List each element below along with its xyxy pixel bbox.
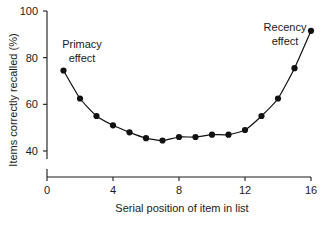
data-point [291,65,297,71]
x-axis-title: Serial position of item in list [115,202,248,214]
data-point [126,129,132,135]
annotation-recency-effect: Recency effect [264,21,307,47]
serial-position-chart: 100 80 60 40 0 4 8 12 16 Items correctly… [0,0,335,226]
x-tick-label-0: 0 [44,184,50,196]
data-point [225,132,231,138]
data-point [60,67,66,73]
chart-canvas: 100 80 60 40 0 4 8 12 16 Items correctly… [0,0,335,226]
y-tick-label-40: 40 [26,145,38,157]
y-tick-label-80: 80 [26,52,38,64]
y-tick-label-60: 60 [26,98,38,110]
data-point [192,134,198,140]
x-tick-label-8: 8 [176,184,182,196]
x-tick-label-16: 16 [305,184,317,196]
annotation-primacy-effect: Primacy effect [62,38,102,64]
recency-effect-label-line2: effect [272,35,299,47]
primacy-effect-label-line1: Primacy [62,38,102,50]
data-point [93,113,99,119]
y-axis-title: Items correctly recalled (%) [7,33,19,166]
data-point [209,132,215,138]
y-axis-ticks [43,11,47,151]
data-point [77,95,83,101]
recency-effect-label-line1: Recency [264,21,307,33]
primacy-effect-label-line2: effect [69,52,96,64]
data-point [308,28,314,34]
data-point [258,113,264,119]
x-tick-label-4: 4 [110,184,116,196]
y-tick-label-100: 100 [20,5,38,17]
data-point [176,134,182,140]
x-tick-label-12: 12 [239,184,251,196]
x-axis-ticks [47,177,311,181]
data-point [242,127,248,133]
data-point [159,137,165,143]
data-point [275,95,281,101]
data-point [143,135,149,141]
data-point [110,122,116,128]
